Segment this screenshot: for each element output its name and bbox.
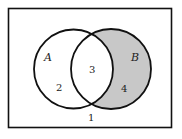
region-1-label: 1 xyxy=(88,112,94,123)
set-b-label: B xyxy=(130,51,139,64)
region-2-label: 2 xyxy=(56,82,62,93)
venn-diagram: A B 2 3 4 1 xyxy=(0,0,182,139)
region-3-label: 3 xyxy=(89,64,95,75)
set-a-label: A xyxy=(43,51,52,64)
region-4-label: 4 xyxy=(121,83,127,94)
